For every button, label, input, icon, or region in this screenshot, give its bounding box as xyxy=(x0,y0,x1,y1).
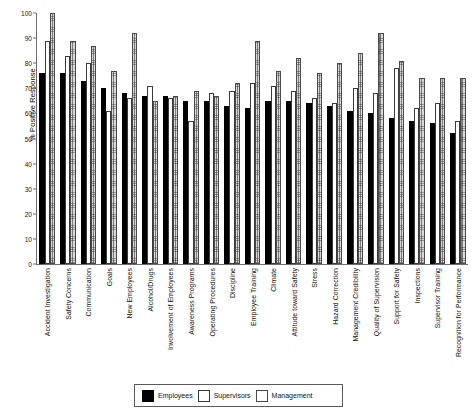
x-axis-label-cell: Operating Procedures xyxy=(201,268,222,376)
bar-management xyxy=(337,63,342,264)
x-axis-tick-label: Attitude toward Safety xyxy=(290,268,297,337)
bar-management xyxy=(235,83,240,264)
x-axis-label-cell: Support for Safety xyxy=(386,268,407,376)
x-axis-label-cell: Stress xyxy=(304,268,325,376)
legend-swatch-supervisors xyxy=(198,390,210,402)
x-axis-label-cell: Involvement of Employees xyxy=(160,268,181,376)
bar-group xyxy=(222,13,243,264)
bar-group xyxy=(345,13,366,264)
bar-group xyxy=(160,13,181,264)
x-axis-label-cell: Management Credibility xyxy=(345,268,366,376)
bar-group xyxy=(99,13,120,264)
x-axis-label-cell: New Employees xyxy=(119,268,140,376)
bar-management xyxy=(358,53,363,264)
bar-group xyxy=(78,13,99,264)
bar-management xyxy=(399,61,404,264)
bar-group xyxy=(407,13,428,264)
bar-management xyxy=(378,33,383,264)
x-axis-tick-label: Awareness Programs xyxy=(187,268,194,335)
x-axis-tick-label: Recognition for Performance xyxy=(454,268,461,357)
bar-group xyxy=(386,13,407,264)
legend-swatch-employees xyxy=(142,390,154,402)
x-axis-label-cell: Climate xyxy=(263,268,284,376)
plot-area: 0102030405060708090100 xyxy=(36,13,468,264)
bar-management xyxy=(296,58,301,264)
bar-group xyxy=(201,13,222,264)
x-axis-tick-label: Supervisor Training xyxy=(434,268,441,328)
x-axis-tick-label: Support for Safety xyxy=(393,268,400,324)
bar-group xyxy=(119,13,140,264)
bar-group xyxy=(427,13,448,264)
bar-group xyxy=(304,13,325,264)
legend-label: Management xyxy=(272,392,313,399)
x-axis-label-cell: Accident Investigation xyxy=(37,268,58,376)
bar-management xyxy=(132,33,137,264)
bar-group xyxy=(263,13,284,264)
legend-item: Supervisors xyxy=(198,390,251,402)
legend-swatch-management xyxy=(256,390,268,402)
legend-label: Employees xyxy=(158,392,193,399)
x-axis-tick-label: Management Credibility xyxy=(352,268,359,342)
bar-management xyxy=(91,46,96,264)
x-axis-tick-label: Quality of Supervision xyxy=(372,268,379,336)
x-axis-label-cell: Goals xyxy=(99,268,120,376)
x-axis-label-cell: Employee Training xyxy=(242,268,263,376)
y-axis-tick-mark xyxy=(33,38,36,39)
legend-item: Management xyxy=(256,390,313,402)
x-axis-tick-label: Communication xyxy=(85,268,92,317)
x-axis-tick-label: Climate xyxy=(270,268,277,292)
x-axis-category-labels: Accident InvestigationSafety ConcernsCom… xyxy=(37,268,468,376)
bar-group xyxy=(181,13,202,264)
x-axis-label-cell: Inspections xyxy=(407,268,428,376)
bar-management xyxy=(111,71,116,264)
bar-management xyxy=(255,41,260,264)
x-axis-tick-label: Discipline xyxy=(229,268,236,298)
legend-item: Employees xyxy=(142,390,193,402)
chart-legend: EmployeesSupervisorsManagement xyxy=(134,384,343,407)
y-axis-tick-mark xyxy=(33,264,36,265)
x-axis-tick-label: Alcohol/Drugs xyxy=(146,268,153,312)
y-axis-tick-mark xyxy=(33,138,36,139)
x-axis-tick-label: New Employees xyxy=(126,268,133,318)
bar-management xyxy=(419,78,424,264)
x-axis-label-cell: Safety Concerns xyxy=(58,268,79,376)
y-axis-tick-mark xyxy=(33,188,36,189)
x-axis-tick-label: Stress xyxy=(311,268,318,288)
x-axis-tick-label: Safety Concerns xyxy=(64,268,71,320)
x-axis-label-cell: Quality of Supervision xyxy=(366,268,387,376)
bar-management xyxy=(153,101,158,264)
bar-management xyxy=(460,78,465,264)
y-axis-tick-mark xyxy=(33,113,36,114)
legend-label: Supervisors xyxy=(214,392,251,399)
y-axis-tick-mark xyxy=(33,213,36,214)
bar-management xyxy=(50,13,55,264)
x-axis-label-cell: Discipline xyxy=(222,268,243,376)
x-axis-tick-label: Hazard Correction xyxy=(331,268,338,325)
bar-chart: % Positive Response 01020304050607080901… xyxy=(0,0,472,416)
x-axis-tick-label: Employee Training xyxy=(249,268,256,326)
bar-group xyxy=(283,13,304,264)
y-axis-tick-mark xyxy=(33,63,36,64)
bar-management xyxy=(317,73,322,264)
x-axis-label-cell: Recognition for Performance xyxy=(448,268,469,376)
bar-groups xyxy=(37,13,468,264)
x-axis-label-cell: Attitude toward Safety xyxy=(283,268,304,376)
bar-management xyxy=(173,96,178,264)
bar-group xyxy=(242,13,263,264)
x-axis-label-cell: Supervisor Training xyxy=(427,268,448,376)
x-axis-label-cell: Hazard Correction xyxy=(324,268,345,376)
bar-management xyxy=(440,78,445,264)
bar-group xyxy=(58,13,79,264)
x-axis-label-cell: Communication xyxy=(78,268,99,376)
bar-group xyxy=(37,13,58,264)
bar-group xyxy=(324,13,345,264)
bar-management xyxy=(214,96,219,264)
y-axis-tick-mark xyxy=(33,13,36,14)
bar-management xyxy=(194,91,199,264)
x-axis-label-cell: Alcohol/Drugs xyxy=(140,268,161,376)
x-axis-line xyxy=(36,264,468,265)
x-axis-tick-label: Operating Procedures xyxy=(208,268,215,336)
x-axis-tick-label: Involvement of Employees xyxy=(167,268,174,350)
x-axis-tick-label: Inspections xyxy=(413,268,420,303)
y-axis-tick-mark xyxy=(33,88,36,89)
